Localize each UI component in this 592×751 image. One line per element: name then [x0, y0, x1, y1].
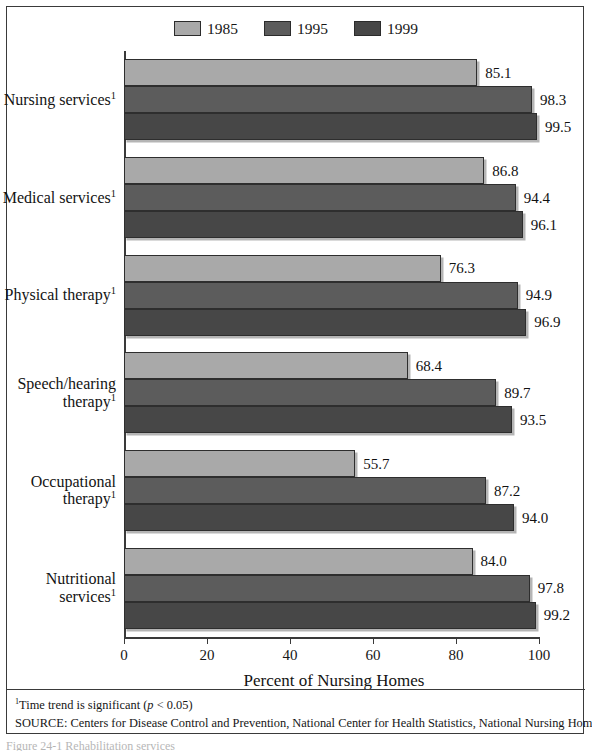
- bar-row: 76.3: [124, 255, 544, 282]
- footnote-marker: 1: [111, 187, 116, 198]
- category-label-line2: therapy1: [63, 393, 116, 410]
- bar-1999[interactable]: [124, 211, 523, 238]
- bar-value-label: 55.7: [363, 455, 389, 472]
- category-label-line2: therapy1: [63, 490, 116, 507]
- bar-value-label: 86.8: [492, 162, 518, 179]
- bar-row: 94.9: [124, 282, 544, 309]
- bar-row: 94.0: [124, 504, 544, 531]
- chart-legend: 198519951999: [7, 21, 585, 37]
- category-label: Occupationaltherapy1: [0, 473, 116, 509]
- x-tick-80: [456, 637, 457, 644]
- bar-1985[interactable]: [124, 548, 473, 575]
- bar-value-label: 97.8: [538, 580, 564, 597]
- bar-row: 93.5: [124, 406, 544, 433]
- category-label-line1: Speech/hearing: [17, 375, 116, 392]
- bar-value-label: 96.1: [531, 216, 557, 233]
- bar-1999[interactable]: [124, 504, 514, 531]
- bar-row: 86.8: [124, 157, 544, 184]
- bar-1995[interactable]: [124, 379, 496, 406]
- bar-1985[interactable]: [124, 255, 441, 282]
- bar-1995[interactable]: [124, 184, 516, 211]
- legend-swatch-1995: [264, 21, 291, 36]
- x-tick-0: [124, 637, 125, 644]
- x-tick-40: [290, 637, 291, 644]
- category-label-line1: Nutritional: [46, 570, 116, 587]
- figure-container: 198519951999 020406080100 Nursing servic…: [0, 0, 592, 751]
- bar-value-label: 89.7: [504, 384, 530, 401]
- x-axis-line: [124, 637, 540, 639]
- footnote-marker: 1: [111, 587, 116, 598]
- bar-value-label: 76.3: [449, 260, 475, 277]
- legend-label-1995: 1995: [297, 21, 328, 37]
- bar-1995[interactable]: [124, 282, 518, 309]
- bar-1985[interactable]: [124, 157, 484, 184]
- figure-frame: 198519951999 020406080100 Nursing servic…: [6, 6, 584, 734]
- bar-1995[interactable]: [124, 477, 486, 504]
- bar-row: 84.0: [124, 548, 544, 575]
- bar-row: 68.4: [124, 352, 544, 379]
- bar-row: 55.7: [124, 450, 544, 477]
- x-axis-title: Percent of Nursing Homes: [124, 671, 544, 691]
- x-tick-label-100: 100: [528, 647, 551, 664]
- bar-1999[interactable]: [124, 406, 512, 433]
- bar-value-label: 94.9: [526, 287, 552, 304]
- x-tick-label-80: 80: [449, 647, 464, 664]
- bar-1999[interactable]: [124, 113, 537, 140]
- bar-group: 85.198.399.5: [124, 59, 544, 140]
- category-label-line1: Medical services1: [3, 189, 116, 206]
- bar-1985[interactable]: [124, 450, 355, 477]
- bar-1995[interactable]: [124, 575, 530, 602]
- bar-value-label: 99.2: [544, 607, 570, 624]
- legend-label-1999: 1999: [387, 21, 418, 37]
- bar-1999[interactable]: [124, 309, 526, 336]
- x-tick-label-40: 40: [283, 647, 298, 664]
- figure-caption: Figure 24-1 Rehabilitation services: [6, 739, 426, 751]
- footnote-marker: 1: [111, 489, 116, 500]
- bar-value-label: 84.0: [481, 553, 507, 570]
- bar-group: 76.394.996.9: [124, 255, 544, 336]
- footnote-marker: 1: [111, 391, 116, 402]
- bar-row: 96.1: [124, 211, 544, 238]
- footnote-marker: 1: [111, 90, 116, 101]
- bar-value-label: 87.2: [494, 482, 520, 499]
- category-label-line1: Occupational: [31, 473, 116, 490]
- bar-value-label: 96.9: [534, 314, 560, 331]
- bar-value-label: 94.0: [522, 509, 548, 526]
- category-label: Nutritionalservices1: [0, 570, 116, 606]
- category-label-line1: Nursing services1: [4, 91, 116, 108]
- category-labels: Nursing services1Medical services1Physic…: [0, 51, 116, 637]
- source-note: SOURCE: Centers for Disease Control and …: [15, 715, 577, 733]
- bar-group: 84.097.899.2: [124, 548, 544, 629]
- bar-value-label: 99.5: [545, 118, 571, 135]
- bar-value-label: 85.1: [485, 64, 511, 81]
- bar-row: 97.8: [124, 575, 544, 602]
- bar-row: 89.7: [124, 379, 544, 406]
- x-tick-label-0: 0: [120, 647, 128, 664]
- legend-item-1995: 1995: [264, 21, 328, 37]
- notes-divider: [7, 689, 585, 690]
- bar-row: 85.1: [124, 59, 544, 86]
- legend-swatch-1985: [174, 21, 201, 36]
- bar-row: 98.3: [124, 86, 544, 113]
- bar-value-label: 98.3: [540, 91, 566, 108]
- legend-item-1999: 1999: [354, 21, 418, 37]
- category-label-line1: Physical therapy1: [5, 286, 116, 303]
- category-label: Medical services1: [0, 189, 116, 207]
- x-tick-60: [373, 637, 374, 644]
- legend-item-1985: 1985: [174, 21, 238, 37]
- footnote: 1Time trend is significant (p < 0.05): [15, 697, 577, 715]
- plot-area: 020406080100 Nursing services1Medical se…: [124, 51, 544, 637]
- bar-value-label: 93.5: [520, 411, 546, 428]
- x-tick-label-60: 60: [366, 647, 381, 664]
- bar-row: 94.4: [124, 184, 544, 211]
- bar-1999[interactable]: [124, 602, 536, 629]
- legend-swatch-1999: [354, 21, 381, 36]
- bar-1995[interactable]: [124, 86, 532, 113]
- bar-1985[interactable]: [124, 59, 477, 86]
- legend-label-1985: 1985: [207, 21, 238, 37]
- bar-row: 99.2: [124, 602, 544, 629]
- bar-group: 55.787.294.0: [124, 450, 544, 531]
- bar-1985[interactable]: [124, 352, 408, 379]
- category-label: Nursing services1: [0, 91, 116, 109]
- bar-value-label: 94.4: [524, 189, 550, 206]
